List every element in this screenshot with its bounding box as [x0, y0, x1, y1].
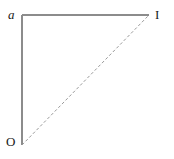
vertex-label-a: a [8, 8, 15, 21]
hypotenuse-dashed-line [22, 15, 149, 145]
vertex-label-i: I [155, 8, 159, 21]
figure-container: a I O [0, 0, 174, 159]
triangle-diagram [0, 0, 174, 159]
vertex-label-o: O [6, 135, 15, 148]
